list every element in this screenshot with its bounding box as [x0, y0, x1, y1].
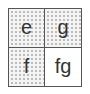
cell-label: g	[57, 17, 68, 37]
cell-e: e	[9, 9, 45, 48]
cell-label: fg	[55, 56, 72, 76]
cell-g: g	[45, 9, 81, 48]
cell-label: e	[21, 17, 32, 37]
cell-fg: fg	[45, 48, 81, 87]
cell-f: f	[9, 48, 45, 87]
cell-label: f	[24, 56, 30, 76]
grid-diagram: e g f fg	[8, 8, 82, 87]
